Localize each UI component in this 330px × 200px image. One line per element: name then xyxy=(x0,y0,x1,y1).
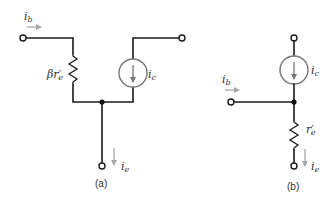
junction-node-b xyxy=(291,99,296,104)
caption-a: (a) xyxy=(95,178,107,189)
emitter-terminal-b xyxy=(291,163,297,169)
base-current-label: ib xyxy=(24,10,33,24)
collector-current-label: ic xyxy=(148,68,157,82)
base-wire xyxy=(26,38,73,53)
caption-b: (b) xyxy=(287,181,299,192)
emitter-terminal xyxy=(99,163,105,169)
collector-wire xyxy=(133,38,179,59)
emitter-current-label-b: ie xyxy=(311,160,320,174)
emitter-current-label: ie xyxy=(121,160,130,174)
base-terminal xyxy=(20,35,26,41)
collector-current-label-b: ic xyxy=(311,64,320,78)
resistor-beta-re-label: βr′e xyxy=(46,68,63,82)
resistor-re-icon xyxy=(290,120,298,150)
base-terminal-b xyxy=(228,99,234,105)
transistor-ac-models-figure: ib βr′e ic ie (a) ic ib xyxy=(0,0,330,200)
circuit-a: ib βr′e ic ie (a) xyxy=(20,10,185,189)
circuit-b: ic ib r′e ie (b) xyxy=(222,35,320,192)
resistor-re-label: r′e xyxy=(306,123,316,137)
collector-terminal xyxy=(179,35,185,41)
collector-terminal-b xyxy=(291,35,297,41)
resistor-beta-re-icon xyxy=(69,53,77,85)
bottom-wire xyxy=(73,85,133,102)
base-current-label-b: ib xyxy=(222,73,231,87)
